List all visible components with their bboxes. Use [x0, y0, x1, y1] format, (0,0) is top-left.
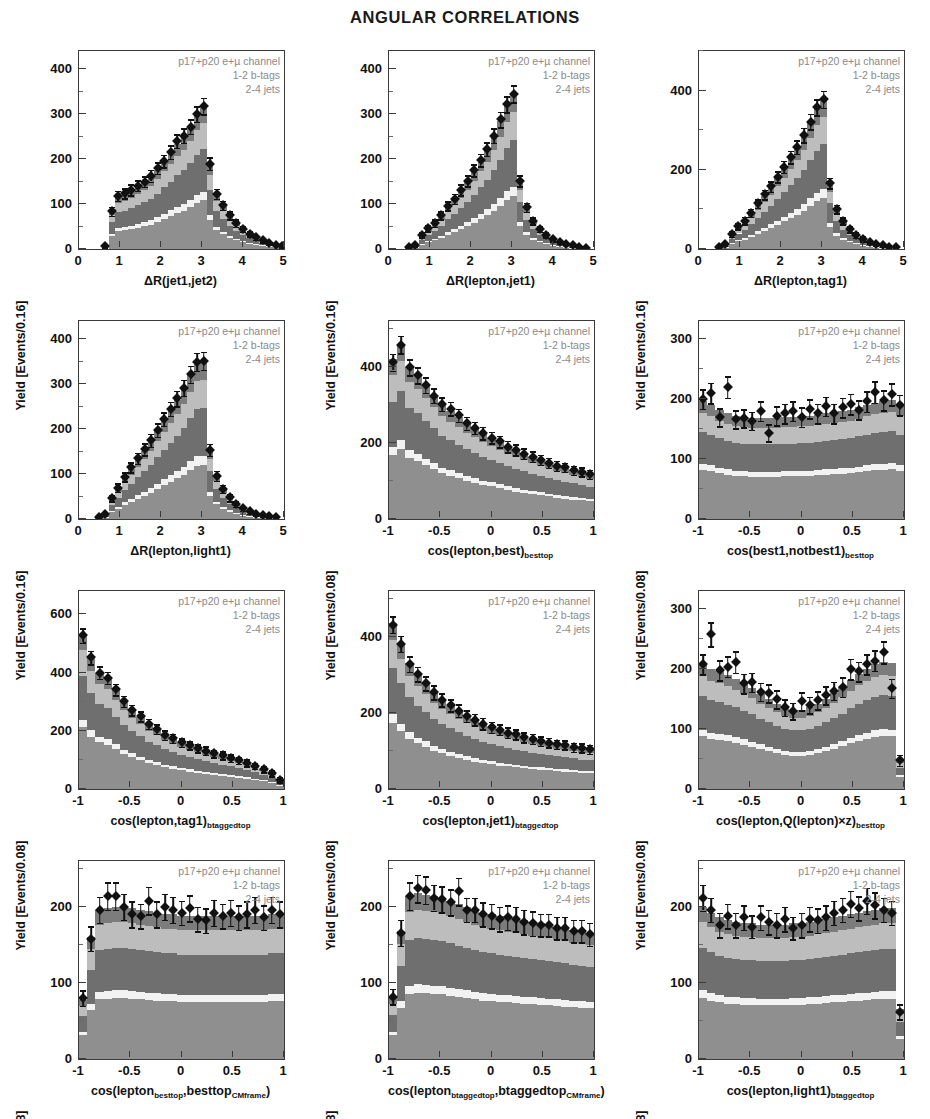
stack-segment [756, 444, 764, 471]
x-tick-mark [542, 781, 543, 787]
stack-segment [545, 999, 553, 1006]
stack-segment [569, 965, 577, 1001]
histogram-bar [397, 344, 405, 519]
error-bar-cap [571, 942, 577, 944]
stack-segment [822, 1003, 830, 1059]
stack-segment [227, 510, 234, 511]
histogram-bar [528, 457, 536, 519]
stack-segment [537, 242, 544, 249]
stack-segment [537, 492, 545, 495]
y-axis-label: Yield [Events/0.08] [324, 1058, 340, 1119]
stack-segment [520, 997, 528, 1004]
stack-segment [853, 243, 860, 244]
stack-segment [194, 930, 202, 954]
stack-segment [879, 991, 887, 999]
histogram-bar [455, 711, 463, 789]
error-bar-cap [168, 416, 174, 418]
error-bar-cap [554, 939, 560, 941]
stack-segment [537, 767, 545, 769]
stack-segment [120, 750, 128, 754]
stack-segment [520, 742, 528, 751]
error-bar-cap [889, 405, 895, 407]
stack-segment [729, 244, 736, 249]
stack-segment [389, 375, 397, 402]
error-bar-cap [700, 885, 706, 887]
data-point [870, 387, 880, 397]
error-bar-cap [188, 383, 194, 385]
stack-segment [145, 951, 153, 992]
stack-segment [794, 178, 801, 208]
error-bar-cap [579, 942, 585, 944]
y-tick-label: 100 [614, 974, 692, 989]
stack-segment [79, 676, 87, 719]
y-tick-label: 200 [304, 434, 382, 449]
error-bar-cap [725, 656, 731, 658]
data-point [723, 382, 733, 392]
stack-segment [79, 1016, 87, 1033]
error-bar-cap [725, 677, 731, 679]
stack-segment [177, 768, 185, 770]
stack-segment [504, 932, 512, 956]
error-bar-cap [174, 406, 180, 408]
histogram-bar [748, 923, 756, 1059]
y-tick-label: 600 [0, 606, 72, 621]
stack-segment [740, 476, 748, 519]
error-bar-cap [174, 391, 180, 393]
stack-segment [148, 493, 155, 519]
stack-segment [446, 728, 454, 751]
stack-segment [145, 993, 153, 1000]
stack-segment [487, 446, 495, 460]
stack-segment [210, 1002, 218, 1059]
histogram-bar [213, 476, 220, 519]
histogram-bar [497, 121, 504, 249]
stack-segment [855, 436, 863, 466]
stack-segment [87, 970, 95, 1004]
stack-segment [732, 997, 740, 1004]
stack-segment [748, 960, 756, 998]
stack-segment [715, 995, 723, 1002]
error-bar-cap [464, 898, 470, 900]
stack-segment [177, 995, 185, 1002]
stack-segment [586, 1002, 594, 1008]
x-tick-label: 0 [487, 523, 494, 538]
stack-segment [807, 198, 814, 206]
x-tick-label: 0 [797, 523, 804, 538]
histogram-bar [120, 907, 128, 1059]
y-minor-tick [79, 91, 83, 92]
error-bar-cap [423, 393, 429, 395]
y-tick-label: 0 [614, 241, 692, 256]
histogram-bar [471, 910, 479, 1059]
x-tick-label: -0.5 [428, 793, 450, 808]
stack-segment [218, 774, 226, 776]
stack-segment [545, 938, 553, 961]
y-tick-mark [79, 473, 86, 474]
stack-segment [154, 179, 161, 193]
stack-segment [781, 444, 789, 472]
stack-segment [128, 718, 136, 731]
stack-segment [537, 476, 545, 493]
y-tick-label: 200 [0, 421, 72, 436]
error-bar-cap [733, 410, 739, 412]
error-bar-cap [138, 904, 144, 906]
stack-segment [463, 760, 471, 789]
stack-segment [207, 492, 214, 496]
stack-segment [838, 1002, 846, 1059]
error-bar-cap [725, 904, 731, 906]
stack-segment [765, 938, 773, 961]
stack-segment [840, 230, 847, 238]
stack-segment [181, 170, 188, 204]
stack-segment [479, 485, 487, 519]
histogram-bar [822, 699, 830, 789]
x-axis-label: cos(best1,notbest1)besttop [698, 544, 903, 558]
y-tick-label: 200 [0, 898, 72, 913]
stack-segment [756, 938, 764, 961]
error-bar-cap [807, 418, 813, 420]
histogram-bar [496, 730, 504, 789]
stack-segment [699, 948, 707, 991]
legend-line-1: p17+p20 e+µ channel [178, 864, 280, 878]
stack-segment [112, 990, 120, 998]
stack-segment [259, 995, 267, 1002]
stack-segment [822, 469, 830, 474]
error-bar-cap [831, 404, 837, 406]
stack-segment [491, 150, 498, 170]
